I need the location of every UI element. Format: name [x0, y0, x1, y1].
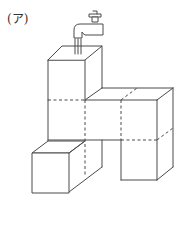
right-block-top-right-edge [157, 88, 173, 100]
front-cube-front-face [32, 153, 69, 193]
right-block-top-left-edge [85, 88, 102, 100]
faucet-body [74, 24, 103, 38]
front-cube [32, 141, 85, 193]
middle-underside-diagonal [69, 167, 102, 192]
figure-canvas: (ア) [0, 0, 194, 228]
division-line-top-diagonal [121, 88, 137, 100]
right-column-bottom-right-edge [157, 167, 173, 180]
division-line-side-diagonal [157, 128, 173, 140]
cube-solid-drawing [0, 0, 194, 228]
faucet-stem [92, 17, 98, 22]
faucet-icon [74, 11, 103, 54]
